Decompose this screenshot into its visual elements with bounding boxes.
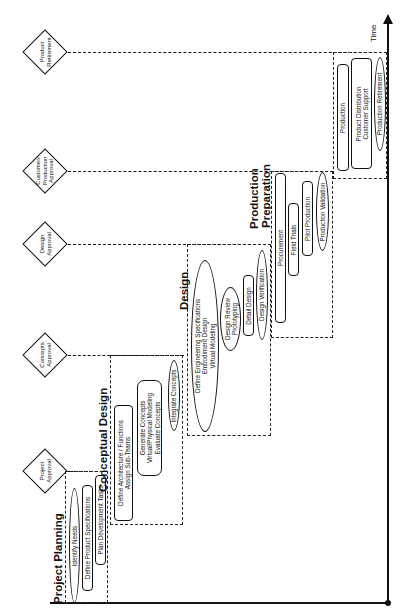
task-generate-concepts: Generate Concepts Virtual/Physical Model… [137, 380, 162, 476]
milestone-label: Retirement [45, 29, 52, 75]
task-label: Integrate Concepts [170, 369, 177, 422]
task-label-line: Prototyping [231, 298, 238, 340]
task-label: Define Engineering Specifications Embodi… [194, 299, 216, 393]
task-label: Production Validation [319, 182, 326, 241]
task-label: Production Retirement [376, 73, 383, 136]
task-label: Design Review Prototyping [223, 298, 238, 340]
stage-title-design: Design [178, 272, 190, 310]
task-label: Define Architecture / Functions Assign S… [116, 420, 131, 506]
origin-dot [385, 600, 391, 606]
task-label: Generate Concepts Virtual/Physical Model… [139, 393, 161, 463]
task-label: Production [339, 102, 346, 132]
task-procurement: Procurement [275, 173, 286, 323]
task-product-distribution: Product Distribution Customer Support [351, 58, 372, 169]
task-label-line: Define Engineering Specifications [194, 299, 201, 393]
task-label-line: Embodiment Design [201, 299, 208, 393]
task-design-verification: Design Verification [256, 250, 268, 340]
task-define-product-specifications: Define Product Specifications [82, 485, 93, 591]
task-pilot-production: Pilot Production [302, 181, 313, 256]
task-label: Field Trials [290, 224, 297, 254]
task-detail-design: Detail Design [243, 275, 254, 336]
task-integrate-concepts: Integrate Concepts [168, 360, 180, 431]
task-production-validation: Production Validation [316, 172, 329, 251]
stage-title-conceptual-design: Conceptual Design [97, 388, 109, 492]
task-label: Identify Needs [71, 525, 78, 565]
task-label: Plan Development Tasks [97, 485, 104, 554]
milestone-label: Approval [45, 332, 52, 378]
task-production: Production [337, 64, 349, 171]
task-label-line: Product Distribution [354, 86, 361, 141]
task-identify-needs: Identify Needs [69, 488, 80, 603]
stage-title-line: Production [248, 164, 260, 229]
milestone-label: Approval [45, 448, 52, 494]
stage-title-production-preparation: Production Preparation [248, 164, 272, 229]
task-label: Procurement [277, 230, 284, 266]
milestone-concepts-approval: Concepts Approval [22, 332, 68, 378]
task-define-architecture: Define Architecture / Functions Assign S… [114, 405, 133, 521]
milestone-customer-production-approval: Customer/ Production Approval [22, 148, 68, 194]
time-axis-label: Time [369, 25, 378, 42]
stage-title-project-planning: Project Planning [52, 513, 64, 604]
milestone-design-approval: Design Approval [22, 221, 68, 267]
task-label: Detail Design [245, 287, 252, 324]
task-label-line: Generate Concepts [139, 393, 146, 463]
task-label: Product Distribution Customer Support [354, 86, 369, 141]
task-label: Design Verification [258, 269, 265, 321]
task-label-line: Design Review [223, 298, 230, 340]
task-field-trials: Field Trials [288, 203, 299, 276]
task-production-retirement: Production Retirement [374, 57, 386, 151]
task-define-engineering-specifications: Define Engineering Specifications Embodi… [191, 260, 219, 432]
task-label-line: Define Architecture / Functions [116, 420, 123, 506]
task-label-line: Evaluate Concepts [153, 393, 160, 463]
task-label-line: Customer Support [362, 86, 369, 141]
time-axis [387, 22, 389, 604]
task-label-line: Virtual Modeling [209, 299, 216, 393]
stage-title-line: Preparation [260, 164, 272, 229]
task-label-line: Virtual/Physical Modeling [146, 393, 153, 463]
milestone-project-approval: Project Approval [22, 448, 68, 494]
task-label-line: Assign Sub-Teams [124, 420, 131, 506]
milestone-label: Approval [45, 221, 52, 267]
milestone-label: Approval [48, 148, 55, 194]
milestone-product-retirement: Product Retirement [22, 29, 68, 75]
task-label: Pilot Production [304, 196, 311, 240]
task-label: Define Product Specifications [84, 497, 91, 579]
time-arrow-icon [383, 14, 393, 24]
task-design-review: Design Review Prototyping [220, 287, 241, 351]
